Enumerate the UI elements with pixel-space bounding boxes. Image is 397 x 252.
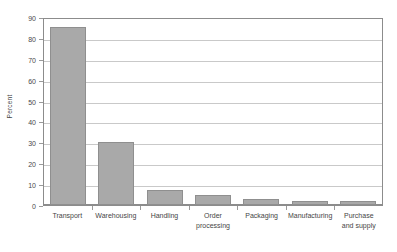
bar — [50, 27, 86, 205]
x-axis-category-label-line: Transport — [44, 211, 91, 221]
x-axis-category-label: Orderprocessing — [189, 211, 238, 249]
y-axis-tick-label: 60 — [28, 77, 36, 84]
bar — [147, 190, 183, 205]
bar-series — [44, 19, 382, 205]
y-axis-tick-label: 0 — [32, 203, 36, 210]
x-axis-category-label-line: Handling — [141, 211, 188, 221]
x-axis-category-label-line: Purchase — [335, 211, 382, 221]
x-axis-category-label: Purchaseand supply — [334, 211, 383, 249]
bar-slot — [141, 19, 189, 205]
x-axis-tick-mark — [140, 206, 141, 210]
x-axis-category-label: Packaging — [237, 211, 286, 249]
bar — [98, 142, 134, 205]
y-axis-tick-label: 80 — [28, 35, 36, 42]
bar-slot — [237, 19, 285, 205]
y-axis-tick-label: 90 — [28, 15, 36, 22]
bar-chart: Percent 0102030405060708090 TransportWar… — [0, 0, 397, 252]
x-axis-category-label-line: Packaging — [238, 211, 285, 221]
bar-slot — [189, 19, 237, 205]
bar-slot — [92, 19, 140, 205]
x-axis-category-label-line: Warehousing — [93, 211, 140, 221]
bar-slot — [334, 19, 382, 205]
y-axis-tick-label: 50 — [28, 98, 36, 105]
y-axis-tick-label: 30 — [28, 140, 36, 147]
x-axis-tick-mark — [189, 206, 190, 210]
x-axis-tick-mark — [237, 206, 238, 210]
plot-area — [43, 18, 383, 206]
bar-slot — [285, 19, 333, 205]
x-axis-tick-marks — [43, 206, 383, 210]
y-axis-tick-label: 20 — [28, 161, 36, 168]
x-axis-category-label-line: Manufacturing — [287, 211, 334, 221]
x-axis-tick-mark — [334, 206, 335, 210]
x-axis-category-label: Handling — [140, 211, 189, 249]
x-axis-category-label-line: Order — [190, 211, 237, 221]
y-axis-tick-label: 10 — [28, 182, 36, 189]
bar — [243, 199, 279, 205]
y-axis-tick-labels: 0102030405060708090 — [14, 18, 36, 206]
x-axis-tick-mark — [92, 206, 93, 210]
x-axis-category-label: Transport — [43, 211, 92, 249]
x-axis-category-label-line: processing — [190, 221, 237, 231]
x-axis-tick-mark — [286, 206, 287, 210]
bar-slot — [44, 19, 92, 205]
x-axis-category-labels: TransportWarehousingHandlingOrderprocess… — [43, 211, 383, 249]
bar — [292, 201, 328, 205]
bar — [195, 195, 231, 205]
y-axis-tick-label: 70 — [28, 56, 36, 63]
y-axis-title-text: Percent — [7, 94, 14, 118]
bar — [340, 201, 376, 205]
x-axis-category-label-line: and supply — [335, 221, 382, 231]
x-axis-category-label: Warehousing — [92, 211, 141, 249]
x-axis-category-label: Manufacturing — [286, 211, 335, 249]
y-axis-tick-label: 40 — [28, 119, 36, 126]
